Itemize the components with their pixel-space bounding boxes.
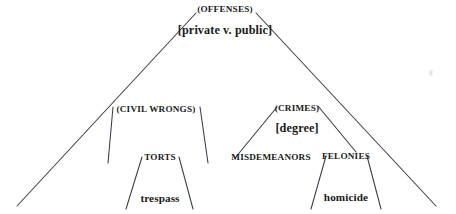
node-civil-wrongs: (CIVIL WRONGS) — [117, 105, 196, 114]
node-misdemeanors: MISDEMEANORS — [231, 153, 310, 162]
node-private-v-public: [private v. public] — [178, 24, 272, 36]
node-trespass: trespass — [140, 193, 179, 204]
node-degree: [degree] — [275, 122, 318, 134]
node-crimes: (CRIMES) — [275, 104, 319, 113]
scan-artifact-speck — [430, 71, 433, 76]
tree-diagram-canvas: (OFFENSES) [private v. public] (CIVIL WR… — [0, 0, 456, 214]
node-felonies: FELONIES — [322, 152, 370, 161]
node-offenses: (OFFENSES) — [197, 5, 253, 14]
civil-wrongs-triangle-right-edge — [200, 107, 208, 163]
node-torts: TORTS — [144, 153, 176, 162]
node-homicide: homicide — [324, 192, 368, 203]
triangle-edges-group — [17, 13, 436, 209]
civil-wrongs-triangle-left-edge — [108, 107, 113, 163]
crimes-triangle-left-edge — [235, 107, 277, 158]
crimes-triangle-right-edge — [318, 106, 356, 152]
torts-triangle-right-edge — [179, 157, 193, 209]
felonies-triangle-right-edge — [367, 156, 381, 209]
